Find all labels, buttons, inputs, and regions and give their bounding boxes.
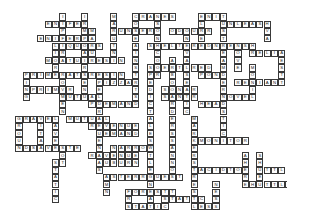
crossword-cell[interactable]: E [198,203,205,210]
crossword-cell[interactable]: F [59,35,66,42]
crossword-cell[interactable]: A [132,43,139,50]
crossword-cell[interactable]: T [81,116,88,123]
crossword-cell[interactable]: D [23,145,30,152]
crossword-cell[interactable]: M [52,86,59,93]
crossword-cell[interactable]: T [132,72,139,79]
crossword-cell[interactable]: I [256,79,263,86]
crossword-cell[interactable]: B [169,72,176,79]
crossword-cell[interactable]: S [220,108,227,115]
crossword-cell[interactable]: D [176,28,183,35]
crossword-cell[interactable]: S [191,189,198,196]
crossword-cell[interactable]: I [23,79,30,86]
crossword-cell[interactable]: M [45,72,52,79]
crossword-cell[interactable]: I [45,86,52,93]
crossword-cell[interactable]: S [103,57,110,64]
crossword-cell[interactable]: S [161,86,168,93]
crossword-cell[interactable]: D [147,86,154,93]
crossword-cell[interactable]: O [234,137,241,144]
crossword-cell[interactable]: N [169,159,176,166]
crossword-cell[interactable]: U [74,116,81,123]
crossword-cell[interactable]: U [220,21,227,28]
crossword-cell[interactable]: S [132,94,139,101]
crossword-cell[interactable]: M [220,64,227,71]
crossword-cell[interactable]: R [81,64,88,71]
crossword-cell[interactable]: E [132,123,139,130]
crossword-cell[interactable]: R [191,152,198,159]
crossword-cell[interactable]: E [198,13,205,20]
crossword-cell[interactable]: M [66,116,73,123]
crossword-cell[interactable]: N [220,94,227,101]
crossword-cell[interactable]: S [161,94,168,101]
crossword-cell[interactable]: V [103,123,110,130]
crossword-cell[interactable]: E [96,86,103,93]
crossword-cell[interactable]: A [59,57,66,64]
crossword-cell[interactable]: N [212,72,219,79]
crossword-cell[interactable]: U [81,94,88,101]
crossword-cell[interactable]: N [154,13,161,20]
crossword-cell[interactable]: O [132,189,139,196]
crossword-cell[interactable]: S [256,21,263,28]
crossword-cell[interactable]: S [59,145,66,152]
crossword-cell[interactable]: I [154,203,161,210]
crossword-cell[interactable]: E [125,174,132,181]
crossword-cell[interactable]: C [198,196,205,203]
crossword-cell[interactable]: E [96,123,103,130]
crossword-cell[interactable]: M [59,94,66,101]
crossword-cell[interactable]: I [37,123,44,130]
crossword-cell[interactable]: N [271,79,278,86]
crossword-cell[interactable]: E [59,101,66,108]
crossword-cell[interactable]: N [45,35,52,42]
crossword-cell[interactable]: O [139,145,146,152]
crossword-cell[interactable]: R [191,130,198,137]
crossword-cell[interactable]: T [132,203,139,210]
crossword-cell[interactable]: R [220,43,227,50]
crossword-cell[interactable]: S [212,196,219,203]
crossword-cell[interactable]: U [154,174,161,181]
crossword-cell[interactable]: A [147,116,154,123]
crossword-cell[interactable]: S [132,64,139,71]
crossword-cell[interactable]: N [169,152,176,159]
crossword-cell[interactable]: R [198,28,205,35]
crossword-cell[interactable]: F [125,189,132,196]
crossword-cell[interactable]: E [147,167,154,174]
crossword-cell[interactable]: N [176,86,183,93]
crossword-cell[interactable]: E [242,167,249,174]
crossword-cell[interactable]: E [74,21,81,28]
crossword-cell[interactable]: D [96,101,103,108]
crossword-cell[interactable]: E [198,64,205,71]
crossword-cell[interactable]: E [212,189,219,196]
crossword-cell[interactable]: N [118,72,125,79]
crossword-cell[interactable]: O [154,57,161,64]
crossword-cell[interactable]: M [110,13,117,20]
crossword-cell[interactable]: A [37,137,44,144]
crossword-cell[interactable]: T [74,94,81,101]
crossword-cell[interactable]: T [191,167,198,174]
crossword-cell[interactable]: T [220,35,227,42]
crossword-cell[interactable]: E [285,181,287,188]
crossword-cell[interactable]: E [191,181,198,188]
crossword-cell[interactable]: D [132,130,139,137]
crossword-cell[interactable]: A [66,72,73,79]
crossword-cell[interactable]: L [191,203,198,210]
crossword-cell[interactable]: T [264,181,271,188]
crossword-cell[interactable]: T [227,137,234,144]
crossword-cell[interactable]: U [66,94,73,101]
crossword-cell[interactable]: I [81,57,88,64]
crossword-cell[interactable]: E [96,137,103,144]
crossword-cell[interactable]: T [191,196,198,203]
crossword-cell[interactable]: E [110,152,117,159]
crossword-cell[interactable]: E [147,130,154,137]
crossword-cell[interactable]: E [96,72,103,79]
crossword-cell[interactable]: A [169,57,176,64]
crossword-cell[interactable]: L [147,123,154,130]
crossword-cell[interactable]: L [198,21,205,28]
crossword-cell[interactable]: A [125,79,132,86]
crossword-cell[interactable]: T [66,145,73,152]
crossword-cell[interactable]: S [191,159,198,166]
crossword-cell[interactable]: E [147,189,154,196]
crossword-cell[interactable]: U [74,57,81,64]
crossword-cell[interactable]: A [220,57,227,64]
crossword-cell[interactable]: E [161,174,168,181]
crossword-cell[interactable]: A [139,203,146,210]
crossword-cell[interactable]: B [110,159,117,166]
